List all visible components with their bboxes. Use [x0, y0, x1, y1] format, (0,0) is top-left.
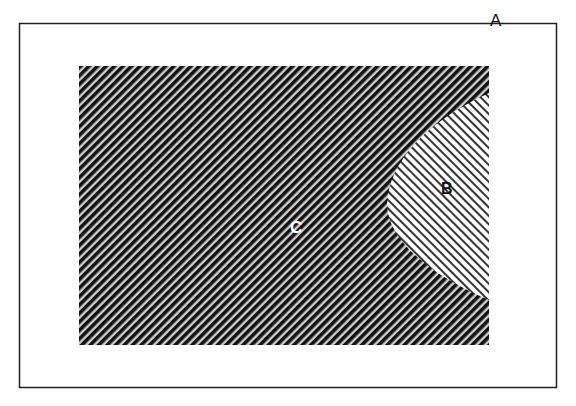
diagram-canvas	[0, 0, 576, 406]
region-b-label: B	[441, 181, 453, 197]
region-c-label: C	[290, 219, 302, 236]
region-a-label: A	[490, 12, 501, 29]
region-diagram: A B C	[0, 0, 576, 406]
